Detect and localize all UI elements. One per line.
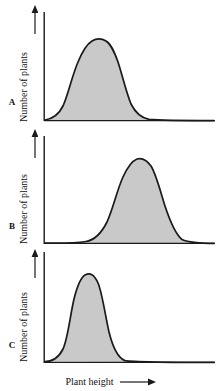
x-axis-label-text: Plant height bbox=[65, 377, 113, 387]
distribution-curve-a bbox=[45, 39, 214, 121]
panel-c: C Number of plants bbox=[0, 244, 223, 368]
plot-b bbox=[0, 122, 223, 250]
plot-c bbox=[0, 244, 223, 368]
distribution-curve-c bbox=[45, 274, 214, 362]
panel-a: A Number of plants bbox=[0, 0, 223, 128]
x-axis-arrow-icon bbox=[120, 377, 158, 387]
panel-b: B Number of plants bbox=[0, 122, 223, 250]
x-axis-label: Plant height bbox=[0, 372, 223, 390]
distribution-curve-b bbox=[45, 158, 214, 243]
figure-plant-height-distributions: A Number of plants B Number of plants bbox=[0, 0, 223, 391]
plot-a bbox=[0, 0, 223, 128]
